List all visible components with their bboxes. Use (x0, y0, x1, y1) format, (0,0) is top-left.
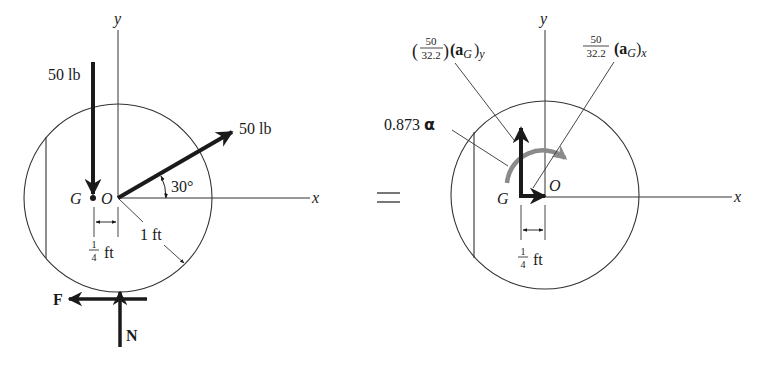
svg-text:50: 50 (426, 35, 438, 47)
friction-force-label: F (53, 291, 63, 308)
svg-text:32.2: 32.2 (586, 47, 605, 59)
ay-label-leader (455, 63, 514, 140)
y-axis-label: y (112, 10, 122, 28)
applied-force-label: 50 lb (239, 120, 271, 137)
svg-text:32.2: 32.2 (421, 49, 440, 61)
svg-text:(aG)y: (aG)y (450, 41, 485, 61)
x-axis-label: x (311, 189, 319, 206)
origin-label: O (549, 177, 561, 194)
svg-text:4: 4 (92, 252, 97, 263)
svg-text:(aG)x: (aG)x (614, 40, 647, 60)
center-of-mass-point (90, 195, 96, 201)
radius-leader-upper (118, 198, 143, 222)
dynamics-diagram: y x 50 lb G O 50 lb 30° 1 ft 1 4 ft F (0, 0, 761, 368)
x-axis-label: x (733, 188, 741, 205)
free-body-diagram: y x 50 lb G O 50 lb 30° 1 ft 1 4 ft F (24, 10, 319, 347)
svg-text:ft: ft (104, 244, 114, 261)
kinetic-diagram: y x G O ( 50 32.2 ) (aG)y 50 32.2 (aG)x (384, 10, 741, 289)
angle-arc (161, 176, 166, 198)
y-axis-label: y (538, 10, 548, 28)
offset-fraction: 1 4 ft (518, 246, 543, 270)
svg-text:1: 1 (92, 239, 97, 250)
svg-text:(: ( (412, 41, 418, 62)
ax-inertia-label: 50 32.2 (aG)x (583, 33, 647, 60)
equals-sign (377, 193, 400, 202)
normal-force-label: N (126, 327, 138, 344)
moment-label: 0.873 α (384, 115, 435, 134)
offset-fraction: 1 4 ft (89, 239, 114, 263)
svg-text:1: 1 (521, 246, 526, 257)
radius-label: 1 ft (140, 226, 162, 243)
svg-text:4: 4 (521, 259, 526, 270)
center-of-mass-label: G (497, 190, 509, 207)
center-of-mass-label: G (70, 190, 82, 207)
weight-force-label: 50 lb (48, 66, 80, 83)
origin-label: O (101, 190, 113, 207)
svg-text:): ) (443, 41, 449, 62)
moment-label-leader (452, 130, 508, 166)
ay-inertia-label: ( 50 32.2 ) (aG)y (412, 35, 485, 62)
radius-leader-lower (164, 245, 184, 263)
svg-text:ft: ft (533, 251, 543, 268)
angle-label: 30° (171, 178, 193, 195)
svg-text:50: 50 (591, 33, 603, 45)
